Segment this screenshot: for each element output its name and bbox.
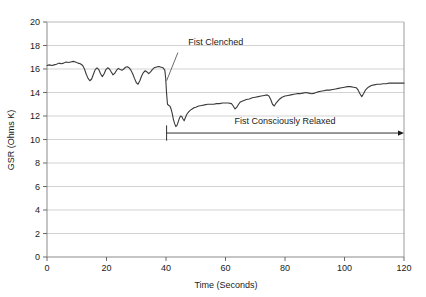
x-axis-title: Time (Seconds) — [194, 280, 257, 290]
y-tick-label-20: 20 — [30, 17, 40, 27]
gsr-chart-figure: 02468101214161820 020406080100120 Fist C… — [0, 0, 426, 297]
x-tick-label-60: 60 — [220, 263, 230, 273]
annotation-label-fist-consciously-relaxed: Fist Consciously Relaxed — [234, 116, 335, 126]
y-tick-label-8: 8 — [35, 158, 40, 168]
y-tick-label-2: 2 — [35, 229, 40, 239]
x-tick-label-20: 20 — [101, 263, 111, 273]
y-tick-label-4: 4 — [35, 205, 40, 215]
y-tick-label-14: 14 — [30, 88, 40, 98]
y-tick-label-18: 18 — [30, 41, 40, 51]
y-tick-label-16: 16 — [30, 64, 40, 74]
y-tick-label-6: 6 — [35, 182, 40, 192]
x-tick-label-80: 80 — [280, 263, 290, 273]
y-tick-label-0: 0 — [35, 252, 40, 262]
x-tick-label-0: 0 — [44, 263, 49, 273]
annotation-label-fist-clenched: Fist Clenched — [188, 37, 243, 47]
y-axis-title: GSR (Ohms K) — [6, 110, 16, 171]
chart-canvas: 02468101214161820 020406080100120 Fist C… — [0, 0, 426, 297]
y-tick-label-12: 12 — [30, 111, 40, 121]
x-tick-label-120: 120 — [396, 263, 411, 273]
y-tick-label-10: 10 — [30, 135, 40, 145]
x-tick-label-100: 100 — [337, 263, 352, 273]
x-tick-label-40: 40 — [161, 263, 171, 273]
